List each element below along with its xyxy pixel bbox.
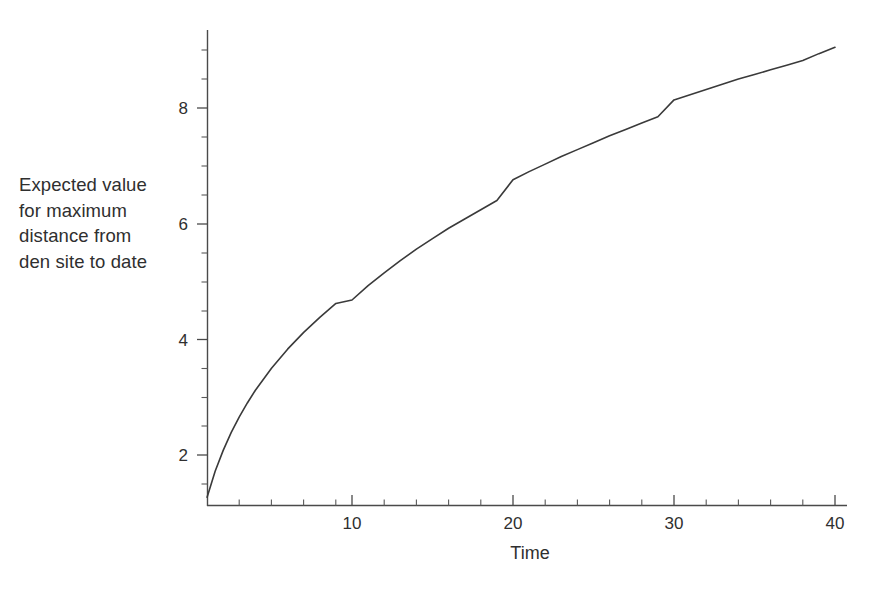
x-tick-label-20: 20 bbox=[504, 514, 523, 533]
y-tick-label-6: 6 bbox=[179, 215, 188, 234]
x-tick-label-10: 10 bbox=[343, 514, 362, 533]
y-axis-minor-ticks bbox=[202, 50, 208, 484]
x-tick-label-40: 40 bbox=[826, 514, 845, 533]
y-tick-label-2: 2 bbox=[179, 446, 188, 465]
plot-area: 8 6 4 2 bbox=[0, 0, 873, 592]
x-axis-major-ticks bbox=[352, 495, 835, 506]
data-series-line bbox=[207, 47, 835, 497]
x-axis-minor-ticks bbox=[239, 500, 803, 506]
chart-figure: Expected value for maximum distance from… bbox=[0, 0, 873, 592]
x-tick-label-30: 30 bbox=[665, 514, 684, 533]
y-tick-label-4: 4 bbox=[179, 331, 188, 350]
y-tick-label-8: 8 bbox=[179, 99, 188, 118]
